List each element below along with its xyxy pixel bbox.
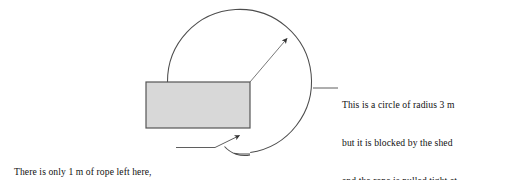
left-note: There is only 1 m of rope left here, so … — [14, 141, 152, 180]
left-note-line-1: There is only 1 m of rope left here, — [14, 166, 152, 179]
left-note-leader-arrow — [215, 136, 240, 148]
right-note-line-1: This is a circle of radius 3 m — [342, 99, 457, 112]
right-note: This is a circle of radius 3 m but it is… — [342, 74, 457, 180]
shed-rectangle — [146, 82, 250, 128]
right-note-line-3: and the rope is pulled tight at — [342, 175, 457, 180]
rope-line-arrow — [250, 39, 287, 83]
geometry-diagram: There is only 1 m of rope left here, so … — [0, 0, 506, 180]
large-circle-arc — [167, 9, 311, 152]
right-note-line-2: but it is blocked by the shed — [342, 137, 457, 150]
